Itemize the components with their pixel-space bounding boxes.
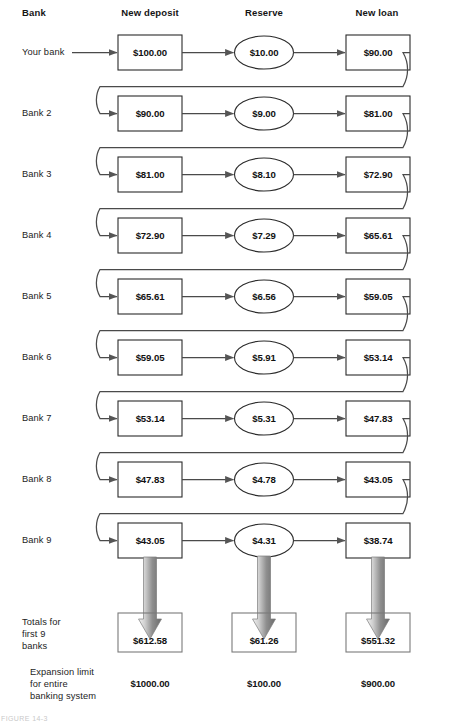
figure-caption: FIGURE 14-3 — [1, 715, 48, 722]
total-flow-arrow — [139, 557, 162, 639]
cell-reserve: $6.56 — [224, 291, 304, 302]
money-multiplier-diagram: BankNew depositReserveNew loan Your bank… — [0, 0, 474, 722]
cell-reserve: $8.10 — [224, 169, 304, 180]
totals-row-label: Totals for first 9 banks — [22, 616, 61, 653]
cell-reserve: $9.00 — [224, 108, 304, 119]
cell-new-loan: $65.61 — [338, 230, 418, 241]
cell-reserve: $10.00 — [224, 47, 304, 58]
cell-new-deposit: $81.00 — [110, 169, 190, 180]
cell-new-deposit: $100.00 — [110, 47, 190, 58]
totals-reserve: $61.26 — [224, 635, 304, 646]
total-flow-arrow — [253, 556, 276, 639]
totals-new-deposit: $612.58 — [110, 635, 190, 646]
cell-reserve: $4.31 — [224, 535, 304, 546]
cell-reserve: $5.91 — [224, 352, 304, 363]
cell-new-deposit: $90.00 — [110, 108, 190, 119]
cell-new-loan: $38.74 — [338, 535, 418, 546]
row-label-bank-6: Bank 6 — [22, 352, 52, 362]
expansion-limit-new-deposit: $1000.00 — [110, 678, 190, 689]
total-flow-arrow — [367, 557, 390, 639]
cell-new-deposit: $65.61 — [110, 291, 190, 302]
row-label-bank-9: Bank 9 — [22, 535, 52, 545]
row-label-bank-2: Bank 2 — [22, 108, 52, 118]
column-header-reserve: Reserve — [204, 7, 324, 18]
totals-new-loan: $551.32 — [338, 635, 418, 646]
row-label-bank-7: Bank 7 — [22, 413, 52, 423]
cell-new-loan: $47.83 — [338, 413, 418, 424]
expansion-limit-new-loan: $900.00 — [338, 678, 418, 689]
expansion-limit-row-label: Expansion limit for entire banking syste… — [30, 666, 96, 703]
cell-new-loan: $72.90 — [338, 169, 418, 180]
cell-new-deposit: $72.90 — [110, 230, 190, 241]
column-header-new_deposit: New deposit — [90, 7, 210, 18]
row-label-bank-3: Bank 3 — [22, 169, 52, 179]
cell-new-loan: $59.05 — [338, 291, 418, 302]
cell-new-deposit: $59.05 — [110, 352, 190, 363]
column-header-bank: Bank — [22, 7, 46, 18]
row-label-bank-1: Your bank — [22, 47, 64, 57]
cell-new-deposit: $47.83 — [110, 474, 190, 485]
cell-reserve: $4.78 — [224, 474, 304, 485]
cell-new-loan: $81.00 — [338, 108, 418, 119]
row-label-bank-5: Bank 5 — [22, 291, 52, 301]
expansion-limit-reserve: $100.00 — [224, 678, 304, 689]
cell-new-loan: $53.14 — [338, 352, 418, 363]
row-label-bank-4: Bank 4 — [22, 230, 52, 240]
cell-new-loan: $90.00 — [338, 47, 418, 58]
cell-new-deposit: $53.14 — [110, 413, 190, 424]
cell-new-loan: $43.05 — [338, 474, 418, 485]
cell-reserve: $5.31 — [224, 413, 304, 424]
cell-new-deposit: $43.05 — [110, 535, 190, 546]
row-label-bank-8: Bank 8 — [22, 474, 52, 484]
cell-reserve: $7.29 — [224, 230, 304, 241]
column-header-new_loan: New loan — [317, 7, 437, 18]
